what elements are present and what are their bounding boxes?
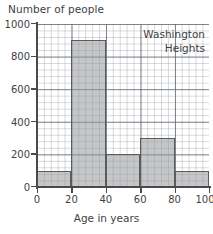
annotation-line-2: Heights [109, 41, 205, 55]
y-tick-label-600: 600 [11, 84, 30, 95]
y-tick-600 [31, 88, 37, 89]
y-tick-200 [31, 153, 37, 154]
x-tick-60 [140, 187, 141, 193]
x-tick-label-80: 80 [168, 194, 181, 205]
y-axis-title: Number of people [8, 3, 104, 15]
x-tick-80 [175, 187, 176, 193]
x-tick-40 [106, 187, 107, 193]
y-tick-label-200: 200 [11, 149, 30, 160]
x-axis-title: Age in years [0, 212, 213, 224]
x-tick-label-60: 60 [134, 194, 147, 205]
bar-0-20 [37, 171, 71, 187]
y-tick-label-1000: 1000 [5, 18, 30, 29]
bar-80-100 [175, 171, 209, 187]
y-axis-line [36, 22, 38, 189]
bar-60-80 [140, 138, 174, 187]
y-tick-1000 [31, 23, 37, 24]
x-tick-label-0: 0 [34, 194, 40, 205]
x-tick-20 [71, 187, 72, 193]
y-tick-label-400: 400 [11, 116, 30, 127]
histogram-chart: Number of people Washington Heights 1000… [0, 0, 213, 234]
y-tick-400 [31, 121, 37, 122]
x-tick-label-40: 40 [99, 194, 112, 205]
x-tick-0 [37, 187, 38, 193]
chart-annotation: Washington Heights [109, 27, 205, 55]
bar-40-60 [106, 154, 140, 187]
x-axis-line [36, 186, 211, 188]
y-tick-label-800: 800 [11, 51, 30, 62]
bar-20-40 [71, 40, 105, 187]
x-tick-label-20: 20 [65, 194, 78, 205]
x-tick-100 [209, 187, 210, 193]
x-tick-label-100: 100 [195, 194, 213, 205]
annotation-line-1: Washington [109, 27, 205, 41]
y-tick-label-0: 0 [24, 181, 30, 192]
y-tick-800 [31, 56, 37, 57]
